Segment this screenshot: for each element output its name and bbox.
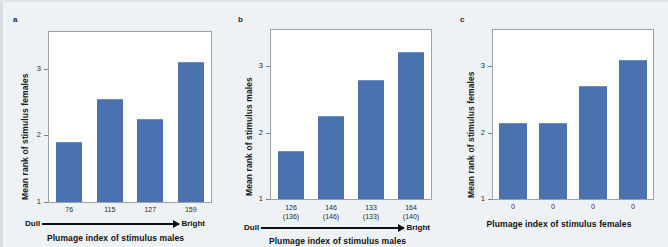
panel-letter-a: a xyxy=(13,15,17,24)
x-axis-tick-label: 0 xyxy=(613,202,653,211)
bar xyxy=(499,123,527,199)
figure-container: a Mean rank of stimulus females 123 7611… xyxy=(0,0,668,247)
bar xyxy=(619,60,647,199)
y-axis-tick-mark xyxy=(44,69,48,70)
y-axis-tick-mark xyxy=(266,199,270,200)
arrow-label-dull-b: Dull xyxy=(244,223,259,232)
bar xyxy=(579,86,607,199)
x-axis-title-c: Plumage index of stimulus females xyxy=(460,219,658,229)
x-axis-tick-label: 133 (133) xyxy=(351,203,391,222)
bar xyxy=(97,99,123,202)
panel-c: c Mean rank of stimulus females 123 0000… xyxy=(448,0,668,247)
arrow-label-bright-b: Bright xyxy=(406,223,430,232)
panel-b: b Mean rank of stimulus males 123 126 (1… xyxy=(226,0,448,247)
y-axis-title-b: Mean rank of stimulus males xyxy=(244,77,254,196)
y-axis-tick-mark xyxy=(266,66,270,67)
bar xyxy=(318,116,344,199)
bar xyxy=(278,151,304,199)
bar xyxy=(56,142,82,202)
bar xyxy=(358,80,384,199)
x-axis-tick-label: 0 xyxy=(533,202,573,211)
x-axis-tick-label: 164 (140) xyxy=(391,203,431,222)
x-axis-tick-label: 159 xyxy=(171,205,212,214)
panel-a: a Mean rank of stimulus females 123 7611… xyxy=(0,0,226,247)
bar xyxy=(539,123,567,199)
y-axis-tick-mark xyxy=(266,133,270,134)
x-axis-tick-label: 126 (136) xyxy=(271,203,311,222)
panel-letter-b: b xyxy=(238,15,243,24)
arrow-line-a xyxy=(42,223,179,225)
y-axis-tick-label: 2 xyxy=(471,129,485,137)
arrow-label-dull-a: Dull xyxy=(25,219,40,228)
arrow-line-b xyxy=(261,227,404,229)
y-axis-tick-mark xyxy=(488,133,492,134)
dull-bright-arrow-b: Dull Bright xyxy=(244,223,430,232)
y-axis-tick-mark xyxy=(44,135,48,136)
y-axis-tick-mark xyxy=(44,202,48,203)
bar xyxy=(178,62,204,202)
y-axis-tick-mark xyxy=(488,199,492,200)
x-axis-tick-label: 0 xyxy=(573,202,613,211)
y-axis-tick-label: 2 xyxy=(27,131,41,139)
arrow-label-bright-a: Bright xyxy=(181,219,205,228)
y-axis-tick-label: 1 xyxy=(249,195,263,203)
panel-letter-c: c xyxy=(460,15,464,24)
y-axis-tick-label: 3 xyxy=(471,62,485,70)
bar xyxy=(398,52,424,199)
y-axis-tick-label: 2 xyxy=(249,129,263,137)
x-axis-title-a: Plumage index of stimulus males xyxy=(18,233,213,243)
y-axis-tick-label: 3 xyxy=(249,62,263,70)
y-axis-tick-label: 1 xyxy=(27,198,41,206)
y-axis-tick-label: 3 xyxy=(27,65,41,73)
x-axis-tick-label: 0 xyxy=(493,202,533,211)
x-axis-tick-label: 76 xyxy=(49,205,90,214)
y-axis-tick-label: 1 xyxy=(471,195,485,203)
x-axis-tick-label: 127 xyxy=(130,205,171,214)
x-axis-tick-label: 146 (146) xyxy=(311,203,351,222)
dull-bright-arrow-a: Dull Bright xyxy=(25,219,205,228)
x-axis-tick-label: 115 xyxy=(90,205,131,214)
bar xyxy=(137,119,163,202)
y-axis-tick-mark xyxy=(488,66,492,67)
x-axis-title-b: Plumage index of stimulus males xyxy=(240,236,435,246)
